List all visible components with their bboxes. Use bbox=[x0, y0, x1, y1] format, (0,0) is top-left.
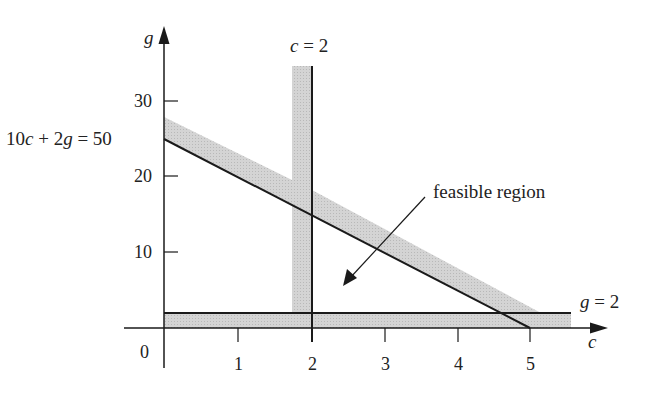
label-g-eq-2: g = 2 bbox=[580, 291, 619, 312]
x-tick-label-5: 5 bbox=[526, 354, 535, 374]
x-tick-label-2: 2 bbox=[308, 354, 317, 374]
band-g-eq-2 bbox=[164, 313, 571, 328]
x-tick-label-1: 1 bbox=[234, 354, 243, 374]
y-tick-label-30: 30 bbox=[134, 91, 152, 111]
x-axis-label: c bbox=[588, 331, 597, 352]
y-tick-label-20: 20 bbox=[134, 166, 152, 186]
label-c-eq-2: c = 2 bbox=[290, 35, 328, 56]
x-tick-label-4: 4 bbox=[454, 354, 463, 374]
pointer-arrowhead-icon bbox=[343, 269, 357, 286]
label-10c-prefix: 10 bbox=[6, 128, 25, 149]
label-g-eq-2-rest: = 2 bbox=[590, 291, 620, 312]
label-c-eq-2-rest: = 2 bbox=[298, 35, 328, 56]
x-tick-label-3: 3 bbox=[381, 354, 390, 374]
label-10c-mid: + 2 bbox=[33, 128, 63, 149]
feasible-region-label: feasible region bbox=[433, 181, 546, 202]
origin-label: 0 bbox=[140, 342, 149, 362]
lp-diagram: g c 0 30 20 10 1 2 3 4 5 c = 2 10c + 2g … bbox=[0, 0, 657, 396]
line-10c-2g-50 bbox=[164, 139, 530, 328]
label-10c-var-g: g bbox=[63, 128, 73, 149]
y-tick-label-10: 10 bbox=[134, 242, 152, 262]
label-g-eq-2-var: g bbox=[580, 291, 590, 312]
label-10c-2g-50: 10c + 2g = 50 bbox=[6, 128, 112, 149]
label-10c-rest: = 50 bbox=[73, 128, 112, 149]
band-10c-2g-50 bbox=[164, 117, 541, 328]
y-axis-arrow-icon bbox=[159, 26, 170, 44]
y-axis-label: g bbox=[144, 27, 154, 48]
